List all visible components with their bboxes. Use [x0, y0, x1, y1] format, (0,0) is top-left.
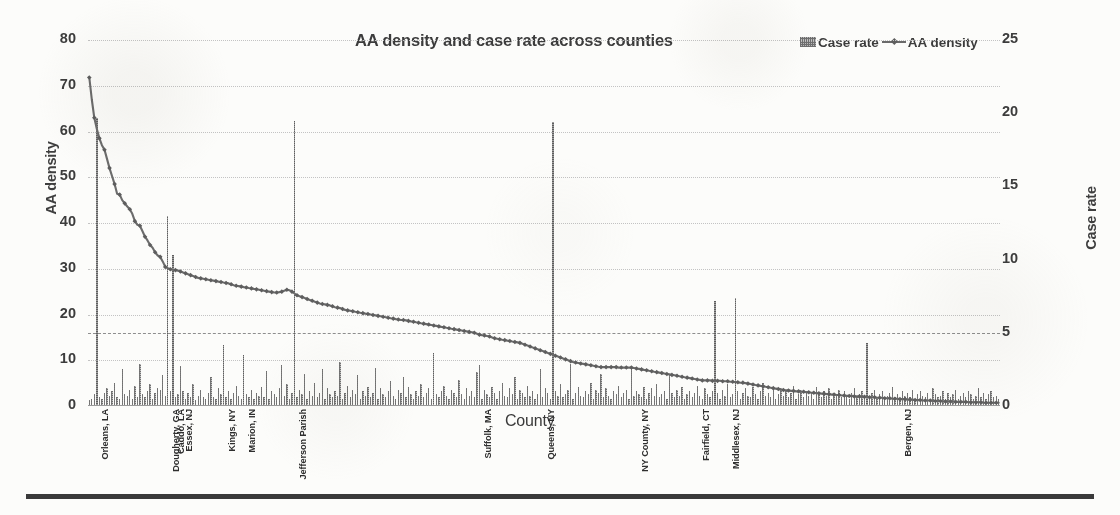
scanned-figure-page: AA density and case rate across counties…: [0, 0, 1120, 515]
y-tick-right-15: 15: [1002, 176, 1036, 192]
y-tick-right-10: 10: [1002, 250, 1036, 266]
x-category-label: Queens, NY: [546, 409, 556, 460]
y-tick-right-0: 0: [1002, 396, 1036, 412]
x-category-label: Fairfield, CT: [701, 409, 711, 461]
x-axis-baseline: [88, 405, 1000, 406]
x-category-label: NY County, NY: [640, 409, 650, 472]
x-category-label: Jefferson Parish: [298, 409, 308, 479]
plot-area: [88, 40, 1000, 406]
y-tick-right-5: 5: [1002, 323, 1036, 339]
x-category-label: Middlesex, NJ: [731, 409, 741, 469]
x-category-label: Suffolk, MA: [483, 409, 493, 458]
y-tick-right-20: 20: [1002, 103, 1036, 119]
x-category-label: Essex, NJ: [184, 409, 194, 452]
y-tick-left-50: 50: [42, 167, 76, 183]
y-tick-left-60: 60: [42, 122, 76, 138]
x-category-label: Kings, NY: [227, 409, 237, 452]
x-category-label: Marion, IN: [247, 409, 257, 452]
y-tick-right-25: 25: [1002, 30, 1036, 46]
y-tick-left-80: 80: [42, 30, 76, 46]
x-category-label: Orleans, LA: [100, 409, 110, 459]
chart-figure: AA density and case rate across counties…: [0, 0, 1120, 470]
y-tick-left-30: 30: [42, 259, 76, 275]
aa-density-line: [88, 40, 1000, 406]
y-tick-left-40: 40: [42, 213, 76, 229]
y-tick-left-0: 0: [42, 396, 76, 412]
y-axis-right-title: Case rate: [1083, 163, 1099, 273]
y-tick-left-70: 70: [42, 76, 76, 92]
x-category-label: Bergen, NJ: [903, 409, 913, 457]
page-bottom-rule: [26, 494, 1094, 499]
y-tick-left-20: 20: [42, 305, 76, 321]
y-tick-left-10: 10: [42, 350, 76, 366]
